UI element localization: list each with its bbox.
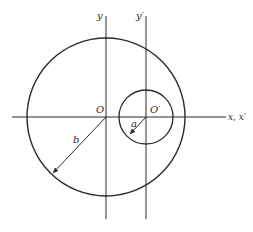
eccentric-circles-diagram: y y′ O O′ x, x′ a b [0,0,253,232]
y-prime-axis-label: y′ [135,10,145,21]
radius-b-label: b [73,134,79,145]
radius-a-label: a [131,118,137,129]
origin-prime-label: O′ [150,104,161,115]
x-axes-label: x, x′ [228,112,246,122]
radius-b-arrow [53,117,106,173]
y-axis-label: y [96,10,103,21]
origin-label: O [96,104,104,115]
